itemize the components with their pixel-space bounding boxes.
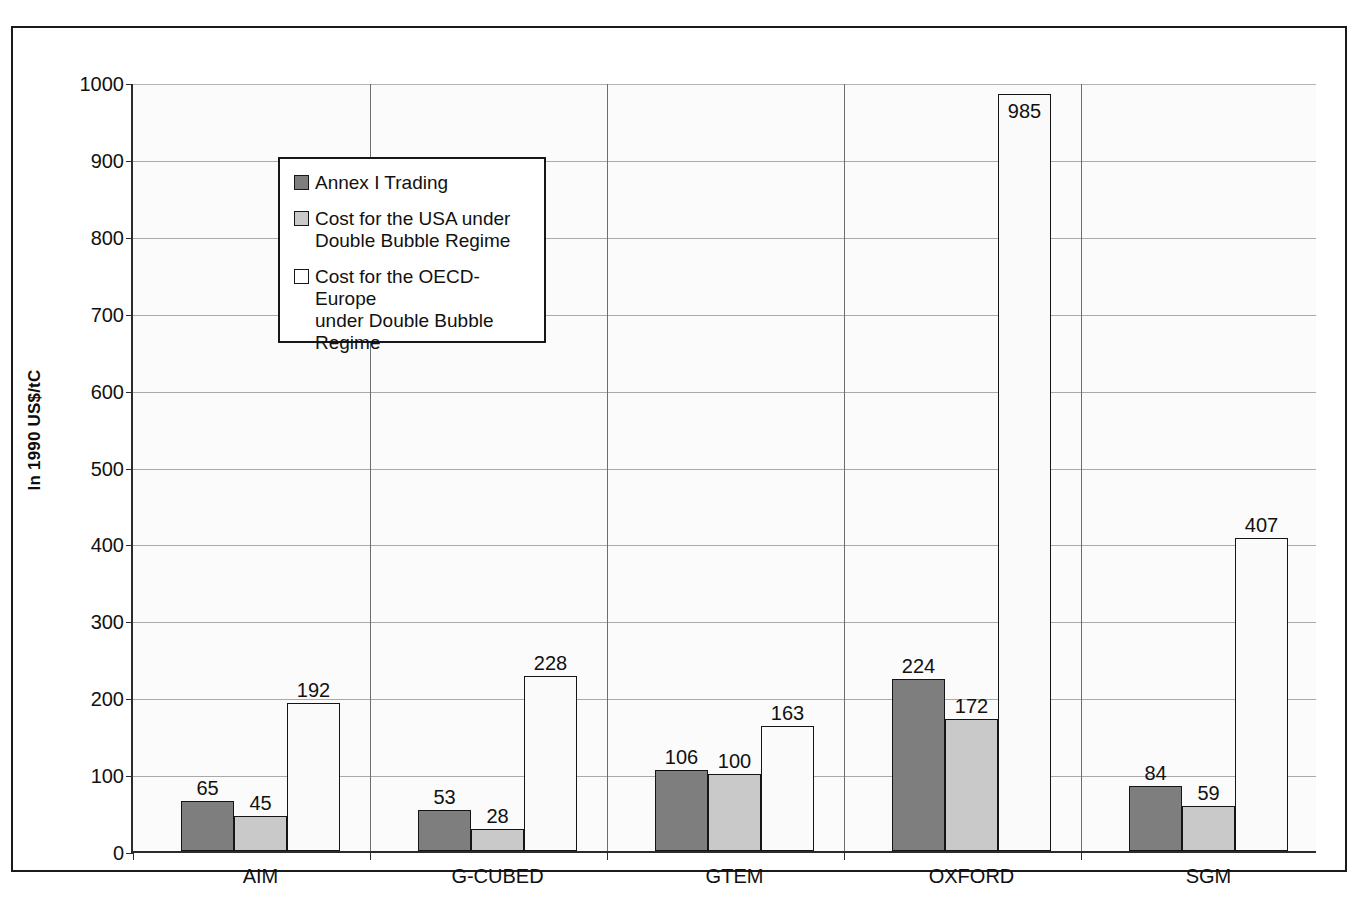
y-tick-label: 500 (91, 459, 124, 479)
y-tick-mark (126, 776, 133, 777)
y-tick-mark (126, 469, 133, 470)
y-tick-label: 0 (113, 843, 124, 863)
y-tick-label: 800 (91, 228, 124, 248)
bar-value-label: 84 (1144, 763, 1166, 783)
y-axis-title: In 1990 US$/tC (25, 370, 45, 491)
legend-label: Cost for the USA underDouble Bubble Regi… (315, 208, 510, 252)
y-tick-label: 200 (91, 689, 124, 709)
x-tick-mark (607, 851, 608, 860)
legend-item[interactable]: Annex I Trading (294, 172, 534, 194)
y-tick-mark (126, 545, 133, 546)
y-tick-label: 700 (91, 305, 124, 325)
x-tick-mark (133, 851, 134, 860)
y-tick-mark (126, 392, 133, 393)
legend-swatch-icon (294, 175, 309, 190)
legend-item[interactable]: Cost for the USA underDouble Bubble Regi… (294, 208, 534, 252)
x-tick-mark (1081, 851, 1082, 860)
y-tick-label: 300 (91, 612, 124, 632)
legend-label: Annex I Trading (315, 172, 448, 194)
x-category-label: SGM (1186, 865, 1232, 888)
bar-value-label: 59 (1197, 783, 1219, 803)
y-tick-label: 100 (91, 766, 124, 786)
legend-label: Cost for the OECD-Europeunder Double Bub… (315, 266, 534, 354)
y-tick-mark (126, 853, 133, 854)
y-tick-mark (126, 315, 133, 316)
figure-frame: In 1990 US$/tC 1000900800700600500400300… (11, 26, 1347, 872)
y-tick-label: 400 (91, 535, 124, 555)
x-category-label: OXFORD (929, 865, 1015, 888)
legend-swatch-icon (294, 269, 309, 284)
legend-swatch-icon (294, 211, 309, 226)
chart-legend: Annex I TradingCost for the USA underDou… (278, 157, 546, 343)
y-tick-mark (126, 238, 133, 239)
y-tick-label: 1000 (80, 74, 125, 94)
y-tick-mark (126, 622, 133, 623)
x-category-label: AIM (243, 865, 279, 888)
bar[interactable]: 407 (1235, 538, 1288, 851)
y-tick-mark (126, 84, 133, 85)
x-category-label: G-CUBED (451, 865, 543, 888)
plot-area: 10009008007006005004003002001000 6545192… (131, 84, 1316, 853)
x-category-label: GTEM (706, 865, 764, 888)
y-tick-mark (126, 161, 133, 162)
bar[interactable]: 59 (1182, 806, 1235, 851)
x-tick-mark (844, 851, 845, 860)
legend-item[interactable]: Cost for the OECD-Europeunder Double Bub… (294, 266, 534, 354)
y-tick-label: 600 (91, 382, 124, 402)
bar-value-label: 407 (1245, 515, 1278, 535)
y-tick-label: 900 (91, 151, 124, 171)
y-tick-mark (126, 699, 133, 700)
x-tick-mark (370, 851, 371, 860)
bar[interactable]: 84 (1129, 786, 1182, 851)
